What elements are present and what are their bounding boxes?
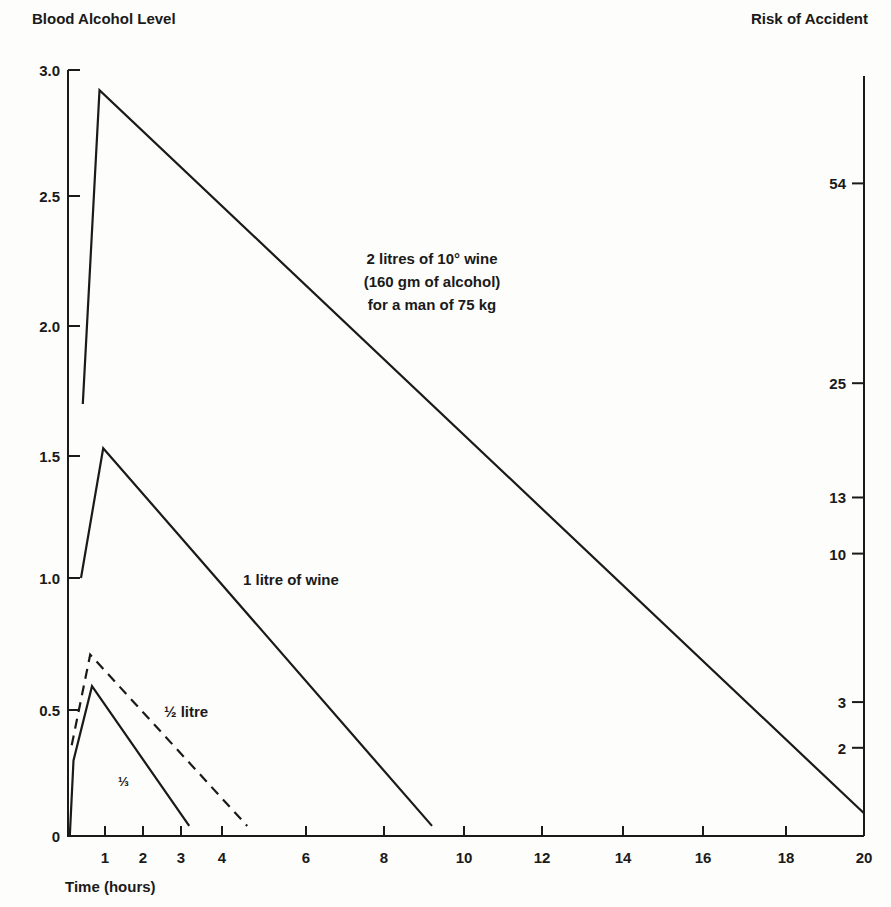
risk-tick-label: 2 [838,740,846,757]
annotation-half-litre: ½ litre [164,703,208,720]
x-axis-title: Time (hours) [65,878,156,895]
y-tick-label: 0 [52,828,60,845]
series-1-litre [81,448,432,826]
y-tick-label: 1.0 [39,570,60,587]
axes: 00.51.01.52.02.53.0123468101214161820231… [39,62,872,866]
annotation-2-litres-line3: for a man of 75 kg [368,296,496,313]
annotation-2-litres-line1: 2 litres of 10° wine [366,250,497,267]
x-tick-label: 16 [695,849,712,866]
x-tick-label: 2 [139,849,147,866]
series-half-litre [72,655,248,826]
y-tick-label: 3.0 [39,62,60,79]
annotation-2-litres-line2: (160 gm of alcohol) [364,273,501,290]
x-tick-label: 6 [302,849,310,866]
risk-tick-label: 54 [829,175,846,192]
left-axis-title: Blood Alcohol Level [32,10,176,27]
y-tick-label: 0.5 [39,702,60,719]
x-tick-label: 14 [615,849,632,866]
x-tick-label: 18 [778,849,795,866]
risk-tick-label: 10 [829,546,846,563]
y-tick-label: 2.5 [39,188,60,205]
annotation-1-litre: 1 litre of wine [243,571,339,588]
annotation-third-litre: ⅓ [118,774,129,789]
risk-tick-label: 3 [838,694,846,711]
risk-tick-label: 13 [829,489,846,506]
y-tick-label: 1.5 [39,448,60,465]
right-axis-title: Risk of Accident [751,10,868,27]
x-tick-label: 20 [856,849,873,866]
blood-alcohol-chart: Blood Alcohol Level Risk of Accident 00.… [0,0,891,907]
risk-tick-label: 25 [829,375,846,392]
x-tick-label: 4 [218,849,227,866]
x-tick-label: 12 [534,849,551,866]
y-tick-label: 2.0 [39,318,60,335]
series-lines [70,90,864,836]
x-tick-label: 10 [456,849,473,866]
x-tick-label: 1 [101,849,109,866]
x-tick-label: 3 [177,849,185,866]
x-tick-label: 8 [380,849,388,866]
